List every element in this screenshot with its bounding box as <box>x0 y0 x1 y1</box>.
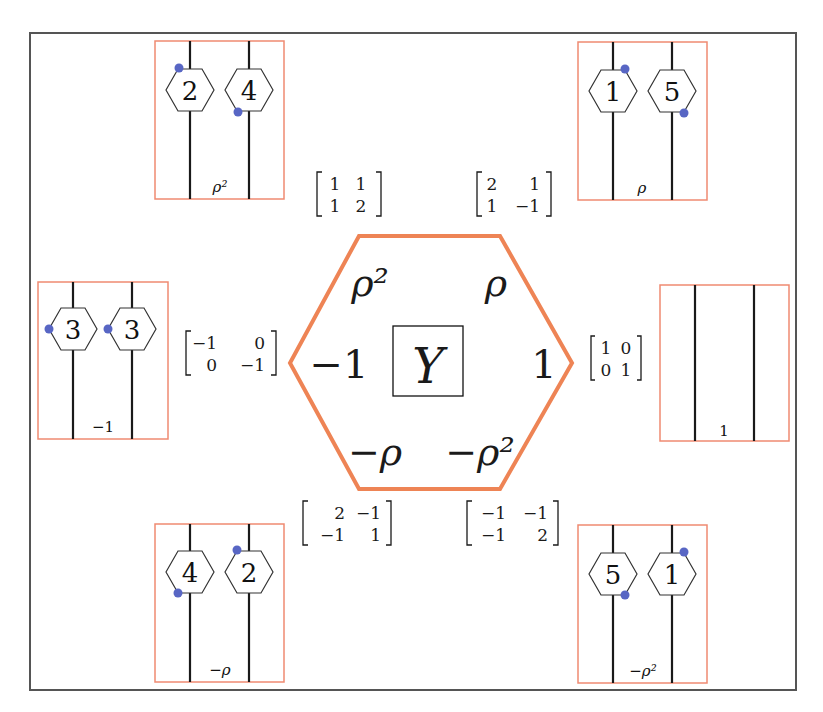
svg-text:−1: −1 <box>523 503 548 523</box>
box-bottom-left: 4 2 −ρ <box>155 524 284 682</box>
matrix-top-left: 1 1 1 2 <box>317 172 381 216</box>
marker-dot <box>233 546 242 555</box>
marker-dot <box>680 548 689 557</box>
svg-text:2: 2 <box>356 196 367 216</box>
svg-text:ρ: ρ <box>637 179 647 197</box>
svg-text:−1: −1 <box>481 525 506 545</box>
svg-text:−1: −1 <box>320 525 345 545</box>
svg-text:−1: −1 <box>515 196 540 216</box>
marker-dot <box>174 589 183 598</box>
svg-text:0: 0 <box>601 360 612 380</box>
svg-text:−1: −1 <box>356 503 381 523</box>
svg-text:−1: −1 <box>92 418 114 436</box>
matrix-left: −1 0 0 −1 <box>186 331 276 375</box>
svg-text:1: 1 <box>330 196 341 216</box>
marker-dot <box>621 591 630 600</box>
svg-text:1: 1 <box>487 196 498 216</box>
svg-text:2: 2 <box>334 503 345 523</box>
svg-text:0: 0 <box>254 333 265 353</box>
svg-text:0: 0 <box>621 338 632 358</box>
hex-label-top-left: ρ² <box>350 261 389 305</box>
svg-text:1: 1 <box>664 560 681 590</box>
svg-text:1: 1 <box>356 174 367 194</box>
hex-label-bottom-right: −ρ² <box>445 430 514 474</box>
hex-label-bottom-left: −ρ <box>348 430 403 474</box>
svg-text:1: 1 <box>330 174 341 194</box>
y-symbol: Y <box>412 338 448 394</box>
marker-dot <box>175 64 184 73</box>
svg-text:2: 2 <box>182 76 199 106</box>
central-hexagon-group: Y ρ² ρ −1 1 −ρ −ρ² <box>290 236 572 489</box>
svg-text:−1: −1 <box>481 503 506 523</box>
svg-text:4: 4 <box>182 558 199 588</box>
svg-text:2: 2 <box>537 525 548 545</box>
svg-text:ρ²: ρ² <box>212 178 228 196</box>
matrix-bottom-left: 2 −1 −1 1 <box>303 501 391 545</box>
marker-dot <box>234 108 243 117</box>
hex-label-top-right: ρ <box>484 261 508 305</box>
svg-text:1: 1 <box>621 360 632 380</box>
matrix-right: 1 0 0 1 <box>591 336 641 380</box>
matrix-top-right: 2 1 1 −1 <box>477 172 551 216</box>
marker-dot <box>680 109 689 118</box>
svg-text:1: 1 <box>719 422 729 440</box>
hex-label-left: −1 <box>310 341 369 387</box>
marker-dot <box>104 325 113 334</box>
matrix-bottom-right: −1 −1 −1 2 <box>467 501 558 545</box>
svg-text:3: 3 <box>124 315 141 345</box>
box-right: 1 <box>660 285 789 441</box>
marker-dot <box>45 325 54 334</box>
svg-text:5: 5 <box>605 560 622 590</box>
svg-text:4: 4 <box>241 76 258 106</box>
svg-text:5: 5 <box>664 77 681 107</box>
svg-text:1: 1 <box>605 77 622 107</box>
svg-text:−1: −1 <box>192 333 217 353</box>
svg-text:0: 0 <box>206 355 217 375</box>
svg-text:−1: −1 <box>240 355 265 375</box>
svg-text:−ρ: −ρ <box>209 661 231 679</box>
svg-text:2: 2 <box>487 174 498 194</box>
marker-dot <box>621 65 630 74</box>
box-left: 3 3 −1 <box>38 282 168 439</box>
hex-label-right: 1 <box>531 341 556 387</box>
diagram-canvas: Y ρ² ρ −1 1 −ρ −ρ² 1 1 1 2 2 1 1 −1 −1 0… <box>0 0 823 712</box>
svg-text:1: 1 <box>529 174 540 194</box>
box-top-right: 1 5 ρ <box>578 42 707 200</box>
svg-text:−ρ²: −ρ² <box>629 662 656 680</box>
box-top-left: 2 4 ρ² <box>155 41 284 199</box>
svg-text:1: 1 <box>370 525 381 545</box>
svg-text:3: 3 <box>65 315 82 345</box>
svg-text:2: 2 <box>241 558 258 588</box>
svg-text:1: 1 <box>601 338 612 358</box>
box-bottom-right: 5 1 −ρ² <box>578 525 707 683</box>
